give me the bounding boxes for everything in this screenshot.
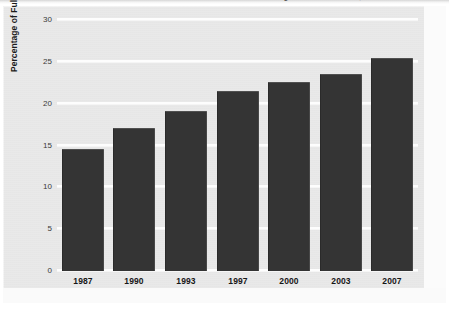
bar-series: 1987199019931997200020032007 bbox=[57, 20, 418, 271]
y-axis-tick-label: 30 bbox=[43, 15, 52, 24]
x-axis-tick-label: 1990 bbox=[113, 276, 155, 286]
bar-group: 2003 bbox=[320, 20, 362, 271]
y-axis-tick-label: 15 bbox=[43, 140, 52, 149]
bar bbox=[62, 149, 104, 271]
x-axis-tick-label: 1997 bbox=[217, 276, 259, 286]
bar-group: 2000 bbox=[268, 20, 310, 271]
bar-group: 2007 bbox=[371, 20, 413, 271]
bar-group: 1997 bbox=[217, 20, 259, 271]
bar bbox=[165, 111, 207, 271]
page-gutter-right bbox=[424, 6, 446, 303]
bar-top-highlight bbox=[371, 58, 413, 59]
bar-top-highlight bbox=[113, 128, 155, 129]
bar-top-highlight bbox=[320, 74, 362, 75]
bar bbox=[268, 82, 310, 271]
bar-group: 1990 bbox=[113, 20, 155, 271]
bar-top-highlight bbox=[165, 111, 207, 112]
y-axis-tick-label: 5 bbox=[47, 224, 52, 233]
y-axis-tick-label: 10 bbox=[43, 182, 52, 191]
chart-page: Gender in Law Enforcement: Percentage of… bbox=[0, 0, 449, 309]
bar-top-highlight bbox=[62, 149, 104, 150]
bar-top-highlight bbox=[217, 91, 259, 92]
x-axis-tick-label: 1993 bbox=[165, 276, 207, 286]
bar bbox=[217, 91, 259, 271]
bar-top-highlight bbox=[268, 82, 310, 83]
x-axis-tick-label: 2000 bbox=[268, 276, 310, 286]
y-axis-tick-label: 25 bbox=[43, 56, 52, 65]
y-axis-tick-label: 20 bbox=[43, 98, 52, 107]
plot-area: 051015202530 198719901993199720002003200… bbox=[57, 20, 418, 271]
cropped-caption-strip: Gender in Law Enforcement: Percentage of… bbox=[0, 0, 449, 4]
y-axis-title: Percentage of Full-Time Sworn Personnel bbox=[5, 0, 23, 80]
page-gutter-bottom bbox=[3, 288, 446, 303]
y-axis-tick-label: 0 bbox=[47, 266, 52, 275]
bar bbox=[371, 58, 413, 271]
bar-group: 1993 bbox=[165, 20, 207, 271]
bar-group: 1987 bbox=[62, 20, 104, 271]
x-axis-tick-label: 1987 bbox=[62, 276, 104, 286]
bar bbox=[320, 74, 362, 271]
x-axis-tick-label: 2007 bbox=[371, 276, 413, 286]
bar bbox=[113, 128, 155, 271]
x-axis-tick-label: 2003 bbox=[320, 276, 362, 286]
